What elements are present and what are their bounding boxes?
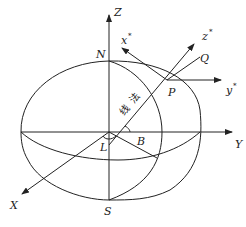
label-x-star-sup: * (128, 32, 132, 40)
label-normal-char-2: 线 (116, 102, 132, 117)
label-y-axis: Y (235, 138, 244, 151)
ellipsoid-outline (21, 61, 201, 200)
label-x-star: x (121, 34, 128, 47)
latitude-angle-arc (125, 126, 130, 132)
label-normal-char-1: 法 (126, 90, 142, 105)
label-b: B (136, 135, 145, 148)
x-axis (22, 132, 109, 194)
label-z-axis: Z (113, 6, 122, 19)
label-y-star: y (225, 84, 233, 97)
meridian-curve (109, 61, 162, 200)
label-l: L (99, 141, 107, 154)
label-z-star-sup: * (209, 28, 213, 36)
q-line (167, 57, 200, 80)
ellipsoid-diagram: Z Y X N S P Q L B x * y * z * 法 线 (0, 0, 246, 227)
label-q: Q (200, 52, 209, 65)
diagram-canvas: Z Y X N S P Q L B x * y * z * 法 线 (0, 0, 246, 227)
label-n: N (95, 48, 106, 61)
label-s: S (104, 205, 112, 218)
normal-line (109, 44, 194, 145)
x-star-axis (122, 48, 167, 80)
label-p: P (167, 86, 176, 99)
label-y-star-sup: * (233, 82, 237, 90)
equator-curve (21, 132, 200, 160)
label-z-star: z (201, 30, 208, 43)
label-x-axis: X (9, 199, 19, 212)
